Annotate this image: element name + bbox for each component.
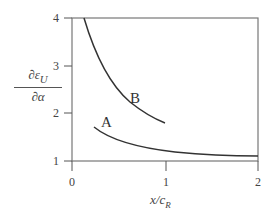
x-tick-label-0: 0 xyxy=(69,175,75,189)
chart-svg: 4 3 2 1 0 1 2 B A xyxy=(0,0,273,218)
curve-label-a: A xyxy=(101,114,112,130)
y-label-num-text: ∂ε xyxy=(28,67,40,82)
x-axis-label: x/cR xyxy=(150,192,171,210)
y-label-num-sub: U xyxy=(40,73,48,85)
y-ticks xyxy=(64,18,72,161)
x-tick-label-2: 2 xyxy=(255,175,261,189)
x-label-text: x/c xyxy=(150,192,165,207)
y-axis-label-denominator: ∂α xyxy=(14,88,62,105)
y-axis-label-numerator: ∂εU xyxy=(14,68,62,88)
y-axis-label: ∂εU ∂α xyxy=(14,68,62,105)
plot-frame xyxy=(72,18,258,161)
curve-label-b: B xyxy=(130,90,140,106)
curve-b xyxy=(84,18,165,123)
y-tick-label-1: 1 xyxy=(53,154,59,168)
y-tick-label-4: 4 xyxy=(53,11,59,25)
curve-a xyxy=(94,127,258,156)
y-tick-label-2: 2 xyxy=(53,106,59,120)
x-tick-label-1: 1 xyxy=(163,175,169,189)
x-label-sub: R xyxy=(165,200,171,210)
x-ticks xyxy=(72,161,258,171)
